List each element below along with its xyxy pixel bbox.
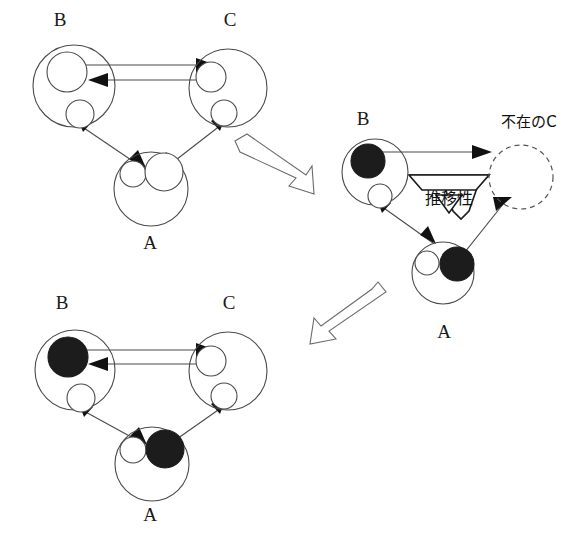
- node-label-a-top-left: A: [143, 232, 157, 253]
- node-a-bottom: [115, 427, 189, 501]
- diagram-canvas: B C A: [0, 0, 584, 534]
- node-b-middle: [342, 139, 408, 208]
- node-b-bottom: [35, 330, 115, 412]
- absent-c-label: 不在のC: [501, 113, 556, 131]
- node-c-top-left: [189, 49, 267, 127]
- node-a-top-left: [114, 152, 188, 226]
- diagram-svg: B C A: [0, 0, 584, 534]
- panel-top-left: B C A: [33, 9, 267, 253]
- node-label-a-bottom: A: [143, 504, 157, 525]
- link-b-to-c-bottom: [68, 343, 216, 371]
- node-a-middle: [412, 242, 474, 304]
- transitivity-label: 推移性: [425, 189, 473, 208]
- node-absent-c: [489, 145, 553, 209]
- transition-arrow-1: [235, 134, 314, 194]
- link-b-to-c: [67, 58, 216, 87]
- node-label-b-middle: B: [357, 108, 370, 129]
- link-b-to-absent-c: [368, 145, 492, 159]
- transition-arrow-2: [310, 282, 386, 344]
- node-b-top-left: [33, 45, 115, 128]
- node-label-b-top-left: B: [54, 9, 67, 30]
- panel-middle-right: 推移性 B 不在のC A: [342, 108, 557, 342]
- panel-bottom-left: B C A: [35, 292, 267, 525]
- node-c-bottom: [189, 332, 267, 410]
- node-label-a-middle: A: [437, 321, 451, 342]
- node-label-c-top-left: C: [224, 9, 237, 30]
- node-label-b-bottom: B: [56, 292, 69, 313]
- node-label-c-bottom: C: [223, 292, 236, 313]
